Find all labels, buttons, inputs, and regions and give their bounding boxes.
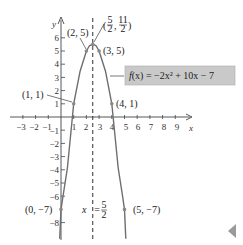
svg-text:f(x) = −2x² + 10x − 7: f(x) = −2x² + 10x − 7	[129, 70, 214, 82]
x-tick-labels: −3 −2 −1 1 2 3 4 5 6 7 8 9 x	[16, 122, 193, 133]
point-1-1	[72, 102, 76, 106]
svg-text:): )	[128, 20, 131, 32]
svg-text:2: 2	[102, 209, 107, 220]
point-3-5	[97, 49, 101, 53]
label-vertex: ( 5 2 , 11 2 )	[103, 14, 131, 34]
label-point-2-5: (2, 5)	[67, 27, 89, 39]
label-point-4-1: (4, 1)	[116, 98, 138, 110]
x-tick-label: 8	[162, 122, 167, 132]
y-tick-label: −2	[49, 139, 59, 149]
svg-text:2: 2	[108, 23, 113, 34]
label-point-1-1: (1, 1)	[22, 89, 44, 101]
point-2-5	[85, 49, 89, 53]
svg-text:=: =	[94, 204, 100, 215]
svg-text:x: x	[81, 204, 87, 215]
y-tick-label: 4	[55, 59, 60, 69]
x-tick-label: 5	[124, 122, 129, 132]
point-4-1	[110, 102, 114, 106]
label-point-0-m7: (0, −7)	[25, 204, 52, 216]
y-tick-label: 3	[55, 73, 60, 83]
x-tick-label: 3	[98, 122, 103, 132]
y-tick-label: 5	[55, 46, 60, 56]
y-tick-label: −1	[49, 126, 59, 136]
x-tick-label: 9	[175, 122, 180, 132]
label-point-3-5: (3, 5)	[103, 45, 125, 57]
x-tick-label: −3	[16, 122, 26, 132]
function-label-box: f(x) = −2x² + 10x − 7	[125, 66, 235, 85]
x-tick-label: 7	[149, 122, 154, 132]
y-tick-label: −3	[49, 152, 59, 162]
function-expression: (x) = −2x² + 10x − 7	[132, 70, 214, 82]
label-point-5-m7: (5, −7)	[133, 204, 160, 216]
svg-text:2: 2	[121, 23, 126, 34]
x-tick-label: 6	[136, 122, 141, 132]
svg-text:,: ,	[114, 20, 117, 31]
point-5-m7	[123, 208, 127, 212]
y-tick-label: −6	[49, 192, 59, 202]
point-vertex	[91, 43, 95, 47]
label-axis-of-symmetry: x = 5 2	[81, 199, 107, 220]
point-0-m7	[59, 208, 63, 212]
y-tick-label: −4	[49, 165, 59, 175]
y-tick-label: 2	[55, 86, 60, 96]
y-tick-label: 1	[55, 99, 60, 109]
y-tick-label: −8	[49, 218, 59, 228]
previous-arrow-icon[interactable]	[228, 224, 236, 238]
x-tick-label: −2	[29, 122, 39, 132]
y-tick-label: 6	[55, 33, 60, 43]
parabola-chart: −3 −2 −1 1 2 3 4 5 6 7 8 9 x 6 5 4 3 2 1…	[0, 0, 243, 245]
svg-text:(: (	[103, 20, 107, 32]
x-axis-label: x	[188, 123, 193, 133]
y-tick-label: −5	[49, 178, 59, 188]
x-tick-label: 2	[84, 122, 89, 132]
y-axis-label: y	[51, 19, 56, 29]
